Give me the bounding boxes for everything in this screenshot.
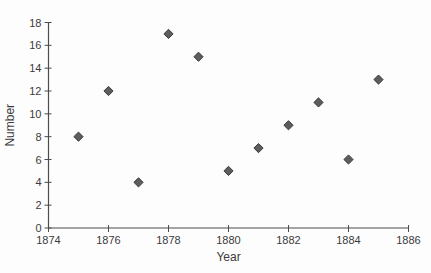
y-tick-label: 2	[35, 199, 41, 211]
data-point-marker	[254, 143, 263, 152]
chart-canvas: 024681012141618 187418761878188018821884…	[0, 0, 431, 273]
y-tick-label: 18	[29, 17, 41, 29]
data-point-marker	[194, 52, 203, 61]
x-tick-label: 1874	[36, 234, 60, 246]
x-tick-label: 1878	[156, 234, 180, 246]
data-point-marker	[374, 75, 383, 84]
data-point-marker	[284, 121, 293, 130]
y-tick-label: 16	[29, 39, 41, 51]
data-point-marker	[74, 132, 83, 141]
data-point-marker	[344, 155, 353, 164]
x-tick-label: 1880	[216, 234, 240, 246]
data-points	[74, 29, 383, 187]
data-point-marker	[314, 98, 323, 107]
scatter-chart: 024681012141618 187418761878188018821884…	[0, 0, 431, 273]
y-tick-label: 4	[35, 176, 41, 188]
x-tick-label: 1886	[396, 234, 420, 246]
data-point-marker	[104, 86, 113, 95]
x-tick-label: 1882	[276, 234, 300, 246]
x-axis-title: Year	[216, 250, 240, 264]
x-tick-label: 1876	[96, 234, 120, 246]
y-tick-label: 10	[29, 108, 41, 120]
y-tick-label: 6	[35, 154, 41, 166]
y-tick-label: 8	[35, 131, 41, 143]
y-tick-label: 12	[29, 85, 41, 97]
y-tick-label: 14	[29, 62, 41, 74]
x-tick-label: 1884	[336, 234, 360, 246]
data-point-marker	[134, 178, 143, 187]
y-tick-label: 0	[35, 222, 41, 234]
data-point-marker	[164, 29, 173, 38]
y-axis-title: Number	[3, 104, 17, 147]
data-point-marker	[224, 166, 233, 175]
